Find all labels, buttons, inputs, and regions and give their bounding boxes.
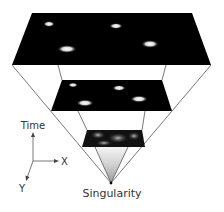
axes (27, 135, 56, 178)
x-arrow-icon (54, 159, 59, 163)
y-arrow-icon (26, 176, 30, 182)
universe-expansion-diagram: Singularity Time X Y (0, 0, 224, 212)
time-axis-label: Time (20, 120, 45, 131)
past-universe-plane (51, 80, 172, 111)
x-axis-label: X (61, 156, 68, 167)
time-arrow-icon (31, 132, 35, 137)
singularity-point (110, 182, 113, 185)
axis-arrowheads (26, 132, 60, 181)
y-axis-label: Y (18, 183, 26, 194)
singularity-label: Singularity (82, 187, 142, 200)
early-universe-plane (82, 130, 145, 147)
present-universe-plane (12, 13, 211, 65)
inner-lines-middle (78, 111, 145, 130)
inner-lines-top (58, 65, 166, 80)
light-cone (95, 147, 128, 183)
